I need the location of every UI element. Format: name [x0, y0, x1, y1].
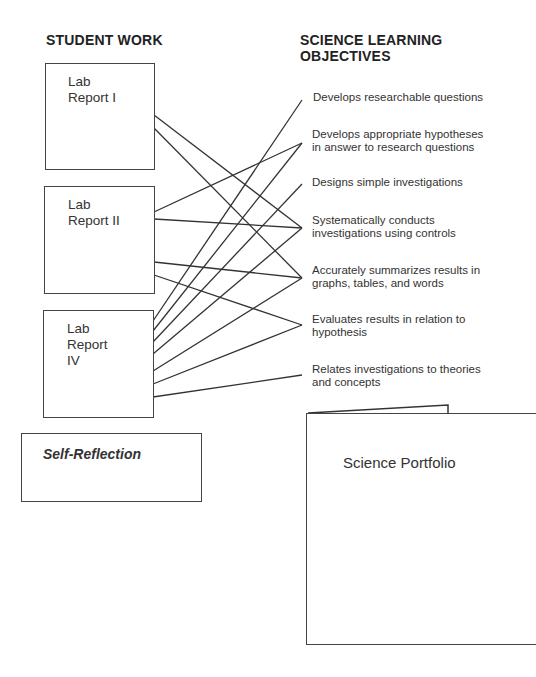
objective-5: Accurately summarizes results in graphs,…: [312, 264, 512, 290]
lab-report-2-box: Lab Report II: [44, 186, 155, 294]
objective-7: Relates investigations to theories and c…: [312, 363, 512, 389]
connector-lab1-obj5: [154, 128, 302, 278]
self-reflection-box: Self-Reflection: [21, 433, 202, 502]
connector-lab4-obj4: [153, 228, 302, 354]
self-reflection-label: Self-Reflection: [43, 446, 141, 462]
objectives-heading: SCIENCE LEARNING OBJECTIVES: [300, 32, 524, 64]
objective-1: Develops researchable questions: [313, 91, 513, 104]
connector-lab4-obj5: [153, 278, 302, 371]
student-work-heading: STUDENT WORK: [46, 32, 163, 48]
objective-4: Systematically conducts investigations u…: [312, 214, 512, 240]
connector-lab4-obj3: [153, 184, 302, 342]
objective-2: Develops appropriate hypotheses in answe…: [312, 128, 512, 154]
lab-report-4-label: Lab Report IV: [67, 321, 108, 369]
lab-report-2-label: Lab Report II: [68, 197, 120, 229]
connector-lab2-obj5: [154, 262, 302, 278]
science-portfolio-box: Science Portfolio: [306, 413, 536, 645]
connector-lab4-obj7: [153, 375, 302, 397]
lab-report-1-box: Lab Report I: [45, 63, 155, 170]
lab-report-4-box: Lab Report IV: [43, 310, 154, 418]
connector-lab4-obj6: [153, 325, 302, 384]
objective-3: Designs simple investigations: [312, 176, 512, 189]
connector-lab2-obj4: [154, 219, 302, 228]
lab-report-1-label: Lab Report I: [68, 74, 116, 106]
objective-6: Evaluates results in relation to hypothe…: [312, 313, 512, 339]
science-portfolio-label: Science Portfolio: [343, 454, 456, 471]
connector-lab2-obj2: [154, 143, 302, 212]
